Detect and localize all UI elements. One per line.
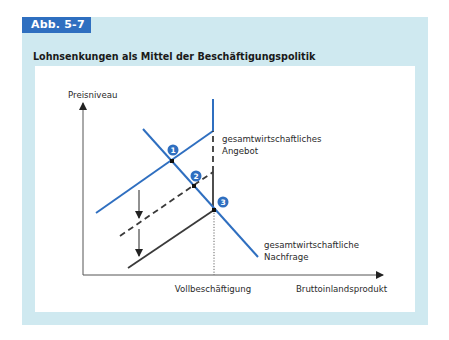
- point-2-badge: 2: [191, 171, 202, 182]
- point-3-marker: [212, 208, 216, 212]
- x-axis-label: Bruttoinlandsprodukt: [296, 284, 388, 294]
- y-axis-label: Preisniveau: [68, 90, 117, 100]
- point-1-marker: [170, 159, 174, 163]
- supply-label-line2: Angebot: [222, 146, 259, 156]
- diagram-canvas: 1 2 3 Preisniveau gesamtwirtschaftliches…: [0, 0, 449, 340]
- svg-text:2: 2: [193, 172, 198, 181]
- full-employment-label: Vollbeschäftigung: [175, 284, 251, 294]
- supply-curve-shifted-2: [128, 172, 214, 268]
- point-1-badge: 1: [168, 145, 179, 156]
- point-2-marker: [192, 184, 196, 188]
- svg-text:3: 3: [220, 198, 225, 207]
- point-3-badge: 3: [218, 197, 229, 208]
- svg-text:1: 1: [170, 146, 175, 155]
- supply-label-line1: gesamtwirtschaftliches: [222, 134, 322, 144]
- supply-curve-original: [96, 99, 213, 213]
- demand-label-line1: gesamtwirtschaftliche: [264, 240, 359, 250]
- equilibrium-points: 1 2 3: [168, 145, 229, 213]
- demand-label-line2: Nachfrage: [264, 252, 308, 262]
